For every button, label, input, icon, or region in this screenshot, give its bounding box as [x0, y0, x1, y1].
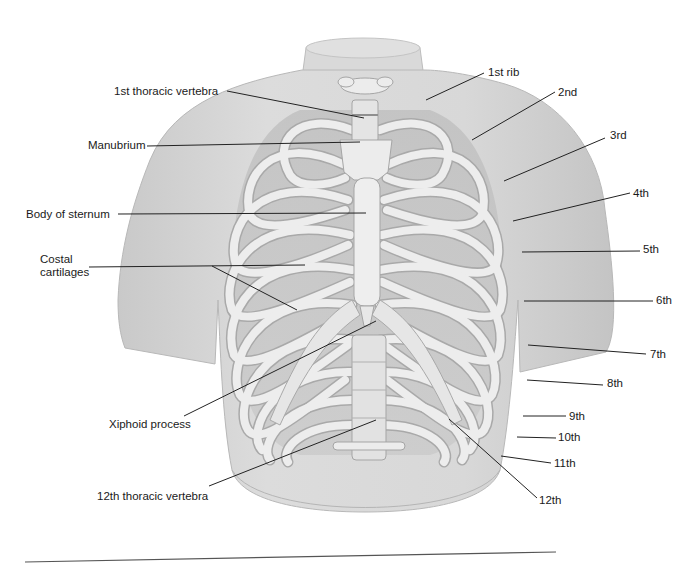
- label-rib-1: 1st rib: [488, 66, 519, 79]
- label-rib-10: 10th: [558, 431, 580, 444]
- label-rib-11: 11th: [554, 457, 576, 470]
- label-rib-2: 2nd: [558, 86, 577, 99]
- label-manubrium: Manubrium: [88, 139, 146, 152]
- label-costal-cartilages: Costal cartilages: [40, 253, 89, 279]
- label-rib-3: 3rd: [610, 129, 627, 142]
- label-body-of-sternum: Body of sternum: [26, 208, 110, 221]
- label-1st-thoracic-vertebra: 1st thoracic vertebra: [114, 85, 218, 98]
- bottom-rule: [25, 552, 556, 562]
- label-rib-7: 7th: [650, 348, 666, 361]
- thoracic-cage-figure: 1st thoracic vertebra Manubrium Body of …: [0, 0, 693, 568]
- label-rib-5: 5th: [643, 243, 659, 256]
- label-rib-6: 6th: [656, 294, 672, 307]
- label-rib-12: 12th: [539, 494, 561, 507]
- label-rib-9: 9th: [569, 410, 585, 423]
- label-12th-thoracic-vertebra: 12th thoracic vertebra: [97, 490, 208, 503]
- label-xiphoid-process: Xiphoid process: [109, 418, 191, 431]
- label-rib-4: 4th: [633, 187, 649, 200]
- label-rib-8: 8th: [607, 377, 623, 390]
- thoracic-cage-illustration: [0, 0, 693, 568]
